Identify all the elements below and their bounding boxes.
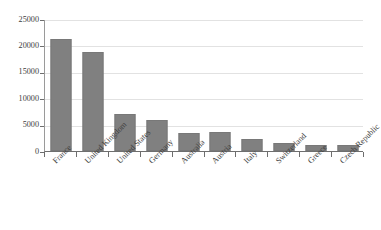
y-axis-tick-label: 10000	[0, 95, 39, 103]
x-axis-tick-mark	[204, 152, 205, 157]
bar-slot	[45, 20, 77, 151]
x-axis-tick-mark	[108, 152, 109, 157]
x-axis-tick-mark	[331, 152, 332, 157]
y-axis-tick-label: 0	[0, 148, 39, 156]
plot-area	[44, 20, 363, 152]
x-axis-tick-mark	[299, 152, 300, 157]
bar-slot	[268, 20, 300, 151]
x-axis-tick-mark	[172, 152, 173, 157]
x-axis-tick-mark	[76, 152, 77, 157]
bar-slot	[236, 20, 268, 151]
bar-slot	[173, 20, 205, 151]
bar-slot	[300, 20, 332, 151]
x-axis-tick-mark	[267, 152, 268, 157]
x-axis-tick-mark	[363, 152, 364, 157]
x-axis-tick-mark	[140, 152, 141, 157]
bar-slot	[205, 20, 237, 151]
bar	[50, 39, 71, 151]
x-axis-tick-mark	[235, 152, 236, 157]
bar	[82, 52, 103, 151]
x-axis-tick-mark	[44, 152, 45, 157]
y-axis-tick-label: 5000	[0, 121, 39, 129]
y-axis-tick-label: 25000	[0, 16, 39, 24]
y-axis-tick-label: 15000	[0, 68, 39, 76]
bar-slot	[77, 20, 109, 151]
bar-slot	[332, 20, 364, 151]
y-axis-tick-label: 20000	[0, 42, 39, 50]
bar-series	[45, 20, 363, 151]
